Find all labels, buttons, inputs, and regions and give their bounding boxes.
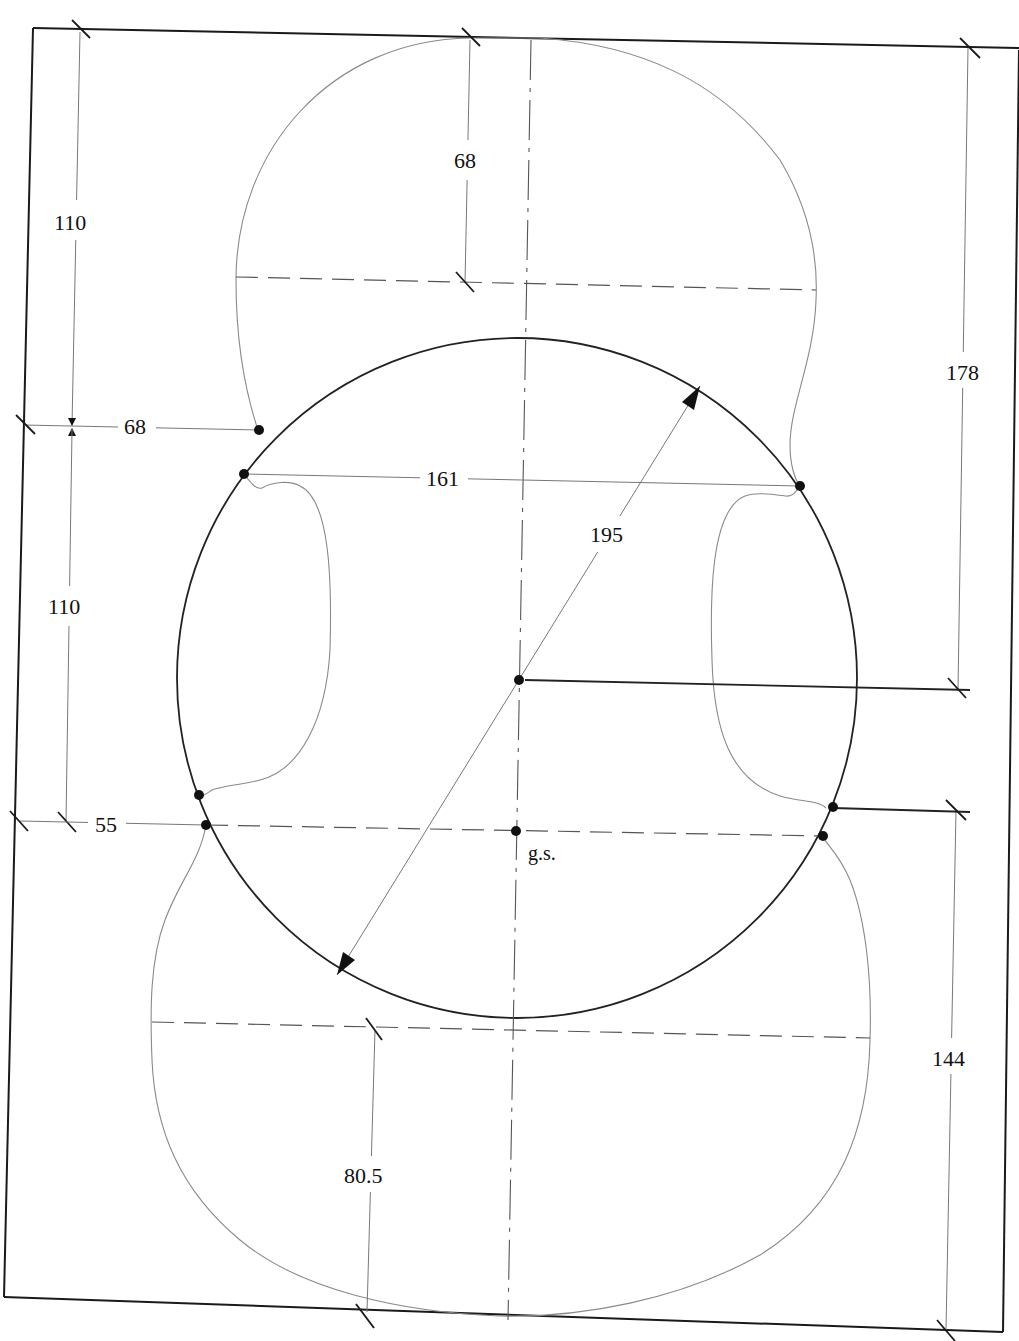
- dim-corner-161: 161: [244, 462, 800, 494]
- dim-middle-110: 110: [44, 430, 92, 832]
- dim-cbout-68: 68: [16, 410, 258, 442]
- dim-label-corner-161: 161: [426, 466, 459, 491]
- point-lower-right-corner: [828, 802, 838, 812]
- point-lower-left-gs: [201, 820, 211, 830]
- point-lower-right-gs: [818, 831, 828, 841]
- lower-bout-line: [152, 1022, 870, 1038]
- dim-label-lower-144: 144: [932, 1046, 965, 1071]
- dim-top-110: 110: [50, 20, 98, 425]
- drawing-canvas: 110 68 68 161 110 55: [0, 0, 1019, 1341]
- dim-upper-68: 68: [448, 28, 488, 292]
- dim-label-upper-68: 68: [454, 148, 476, 173]
- dim-lower-80-5: 80.5: [340, 1018, 396, 1328]
- point-upper-left-cbout: [254, 425, 264, 435]
- point-upper-left-corner: [239, 469, 249, 479]
- violin-outline: [151, 38, 870, 1316]
- dim-label-cbout-68: 68: [124, 414, 146, 439]
- reference-points: [194, 425, 838, 841]
- dim-upper-178: 178: [525, 38, 988, 698]
- dim-label-upper-178: 178: [946, 360, 979, 385]
- dim-lower-144: 144: [833, 800, 974, 1341]
- point-circle-center: [514, 675, 524, 685]
- dim-label-top-110: 110: [54, 210, 86, 235]
- dim-label-middle-110: 110: [48, 594, 80, 619]
- dim-label-lower-55: 55: [95, 812, 117, 837]
- gs-label: g.s.: [528, 842, 556, 865]
- dim-lower-55: 55: [10, 808, 206, 840]
- dim-label-lower-80-5: 80.5: [344, 1163, 383, 1188]
- dim-label-diameter-195: 195: [590, 522, 623, 547]
- point-lower-left-corner: [194, 790, 204, 800]
- point-upper-right-corner: [795, 481, 805, 491]
- point-gs: [511, 826, 521, 836]
